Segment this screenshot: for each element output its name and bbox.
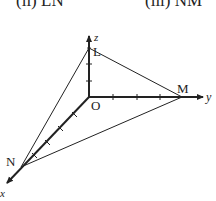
coordinate-diagram: z L O M y N x (0, 0, 216, 201)
z-axis-label: z (93, 31, 99, 43)
point-M-label: M (177, 81, 189, 96)
origin-label: O (91, 98, 100, 113)
segment-LM (89, 48, 182, 97)
segment-NM (21, 97, 182, 167)
y-axis-label: y (205, 90, 212, 104)
point-L-label: L (93, 44, 101, 59)
point-N-label: N (6, 154, 16, 169)
x-axis (7, 97, 89, 183)
x-axis-label: x (0, 187, 5, 199)
